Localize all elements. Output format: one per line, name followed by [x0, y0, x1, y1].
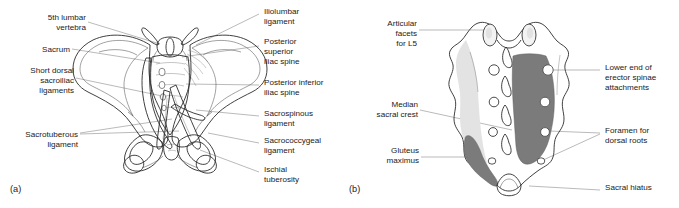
label-articular-facets-for-l5-line-3: for L5 [396, 39, 417, 48]
label-fifth-lumbar-vertebra-line-1: 5th lumbar [48, 13, 87, 22]
label-posterior-superior-iliac-spine-line-2: superior [264, 47, 294, 56]
label-sacrococcygeal-ligament-line-2: ligament [264, 146, 295, 155]
label-lower-end-of-erector-spinae-attachments-line-1: Lower end of [605, 63, 653, 72]
figure-background [0, 0, 679, 208]
anatomy-figure: 5th lumbar vertebra Sacrum Short dorsal … [0, 0, 679, 208]
label-sacrospinous-ligament-line-1: Sacrospinous [264, 109, 313, 118]
label-fifth-lumbar-vertebra-line-2: vertebra [56, 23, 86, 32]
label-foramen-for-dorsal-roots-line-1: Foramen for [605, 126, 649, 135]
label-lower-end-of-erector-spinae-attachments-line-2: erector spinae [605, 73, 657, 82]
label-lower-end-of-erector-spinae-attachments-line-3: attachments [605, 83, 649, 92]
foramen-left-s3 [489, 128, 498, 137]
label-median-sacral-crest-line-1: Median [391, 100, 418, 109]
panel-a-letter: (a) [10, 184, 21, 194]
label-sacrospinous-ligament-line-2: ligament [264, 119, 295, 128]
label-short-dorsal-sacroiliac-ligaments-line-3: ligaments [39, 86, 74, 95]
foramen-right-s3 [541, 128, 550, 137]
label-iliolumbar-ligament-line-1: Iliolumbar [264, 7, 299, 16]
label-foramen-for-dorsal-roots-line-2: dorsal roots [605, 136, 647, 145]
label-posterior-superior-iliac-spine-line-1: Posterior [264, 37, 297, 46]
label-ischial-tuberosity-line-1: Ischial [264, 165, 287, 174]
label-sacral-hiatus: Sacral hiatus [605, 183, 652, 192]
label-gluteus-maximus-line-2: maximus [387, 156, 419, 165]
label-sacrotuberous-ligament-line-1: Sacrotuberous [25, 130, 78, 139]
label-sacrum: Sacrum [42, 45, 70, 54]
label-articular-facets-for-l5-line-1: Articular [387, 19, 417, 28]
label-iliolumbar-ligament-line-2: ligament [264, 17, 295, 26]
foramen-left-s2 [489, 97, 499, 107]
foramen-right-s4 [537, 158, 545, 164]
label-sacrococcygeal-ligament-line-1: Sacrococcygeal [264, 136, 321, 145]
articular-facet-right-highlight [527, 28, 533, 39]
articular-facet-left-highlight [486, 28, 492, 39]
label-articular-facets-for-l5-line-2: facets [395, 29, 417, 38]
label-short-dorsal-sacroiliac-ligaments-line-1: Short dorsal [30, 66, 74, 75]
label-sacrotuberous-ligament-line-2: ligament [47, 140, 78, 149]
foramen-right-s1 [543, 65, 553, 75]
label-short-dorsal-sacroiliac-ligaments-line-2: sacroiliac [40, 76, 74, 85]
figure-canvas: 5th lumbar vertebra Sacrum Short dorsal … [0, 0, 679, 208]
foramen-left-s1 [489, 65, 499, 75]
label-posterior-inferior-iliac-spine-line-2: iliac spine [264, 88, 300, 97]
foramen-right-s2 [540, 97, 550, 107]
foramen-left-s4 [488, 158, 496, 164]
panel-b-letter: (b) [349, 184, 360, 194]
label-median-sacral-crest-line-2: sacral crest [377, 110, 419, 119]
label-posterior-inferior-iliac-spine-line-1: Posterior inferior [264, 78, 324, 87]
label-gluteus-maximus-line-1: Gluteus [391, 146, 419, 155]
label-ischial-tuberosity-line-2: tuberosity [264, 175, 300, 184]
label-posterior-superior-iliac-spine-line-3: iliac spine [264, 57, 300, 66]
